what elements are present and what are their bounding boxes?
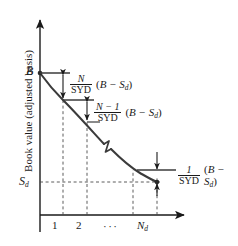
second-year-factor-close: ) [158,106,162,118]
last-year-factor-close: ) [213,175,217,187]
last-year-denominator: SYD [178,176,200,186]
curve-end-point-marker [155,180,160,185]
last-year-factor: (B − Sd) [204,163,238,189]
second-year-numerator: N − 1 [94,102,121,112]
second-year-denominator: SYD [97,113,119,123]
x-tick-label-Nd: Nd [137,220,148,232]
syd-book-value-figure: Book value (adjusted basis) B Sd 1 2 ···… [0,0,238,246]
curve-break-zigzag [104,141,111,152]
y-tick-label-Sd: Sd [19,175,29,188]
second-year-depreciation-annotation: N − 1 SYD (B − Sd) [94,102,162,123]
second-year-factor-body: B − S [129,106,154,118]
first-year-factor-close: ) [129,78,133,90]
y-tick-label-B: B [26,65,33,77]
first-year-factor-body: B − S [100,78,125,90]
first-year-denominator: SYD [70,85,92,95]
x-tick-label-1: 1 [52,220,58,231]
last-year-numerator: 1 [185,165,194,175]
second-year-fraction: N − 1 SYD [94,102,121,123]
x-tick-label-ellipsis: ··· [103,221,119,232]
y-tick-label-Sd-subscript: d [25,180,29,189]
x-tick-label-2: 2 [76,220,82,231]
second-year-factor: (B − Sd) [125,106,161,120]
x-tick-label-Nd-subscript: d [144,224,148,233]
last-year-depreciation-annotation: 1 SYD (B − Sd) [178,163,238,189]
first-year-depreciation-annotation: N SYD (B − Sd) [70,74,132,95]
y-axis-label: Book value (adjusted basis) [22,36,34,186]
last-year-fraction: 1 SYD [178,165,200,186]
first-year-fraction: N SYD [70,74,92,95]
first-year-numerator: N [76,74,87,84]
first-year-factor: (B − Sd) [96,78,132,92]
book-value-curve-segment-2 [111,149,157,182]
